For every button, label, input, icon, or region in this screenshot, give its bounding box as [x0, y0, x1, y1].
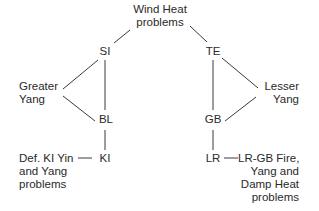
node-te: TE	[203, 45, 223, 58]
node-text: Wind Heat	[130, 3, 190, 16]
node-text: Yang	[19, 93, 58, 106]
node-text: problems	[19, 178, 73, 191]
node-text: Yang	[255, 93, 299, 106]
node-text: LR-GB Fire,	[238, 152, 299, 165]
node-text: problems	[130, 16, 190, 29]
node-ki: KI	[95, 152, 115, 165]
node-lesser-yang: Lesser Yang	[255, 80, 299, 106]
node-lr: LR	[203, 152, 223, 165]
node-wind-heat-problems: Wind Heat problems	[130, 3, 190, 29]
node-text: Damp Heat	[238, 178, 299, 191]
node-text: Greater	[19, 80, 58, 93]
node-si: SI	[95, 45, 115, 58]
node-ki-problems: Def. KI Yin and Yang problems	[19, 152, 73, 191]
node-text: problems	[238, 191, 299, 204]
node-text: Yang and	[238, 165, 299, 178]
node-gb: GB	[201, 113, 225, 126]
node-lr-problems: LR-GB Fire, Yang and Damp Heat problems	[238, 152, 299, 204]
node-greater-yang: Greater Yang	[19, 80, 58, 106]
node-text: Lesser	[255, 80, 299, 93]
node-text: Def. KI Yin	[19, 152, 73, 165]
node-bl: BL	[95, 113, 117, 126]
node-text: and Yang	[19, 165, 73, 178]
